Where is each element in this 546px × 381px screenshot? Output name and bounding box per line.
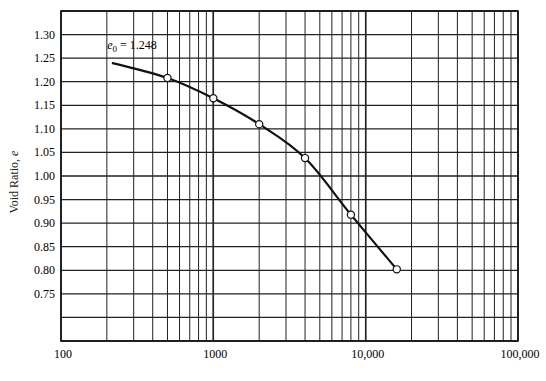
y-tick-label: 0.90 [34,216,55,230]
y-tick-label: 0.80 [34,263,55,277]
data-point-marker [347,211,354,218]
y-tick-label: 1.20 [34,75,55,89]
y-tick-label: 1.10 [34,122,55,136]
y-tick-label: 1.00 [34,169,55,183]
y-tick-label: 1.15 [34,98,55,112]
x-tick-label: 1000 [203,347,227,361]
data-point-marker [210,95,217,102]
consolidation-chart: 1.301.251.201.151.101.051.000.950.900.85… [0,0,546,381]
e0-annotation: e0 = 1.248 [107,38,157,54]
data-point-marker [256,121,263,128]
y-tick-label: 0.75 [34,287,55,301]
y-tick-labels: 1.301.251.201.151.101.051.000.950.900.85… [34,28,55,301]
y-tick-label: 1.25 [34,51,55,65]
data-point-marker [164,74,171,81]
x-tick-label: 10,000 [351,347,384,361]
x-tick-label: 100,000 [501,347,540,361]
y-tick-label: 0.95 [34,193,55,207]
data-point-marker [301,154,308,161]
x-tick-label: 100 [54,347,72,361]
y-axis-label: Void Ratio, e [7,151,22,214]
grid [61,11,518,341]
data-point-marker [393,266,400,273]
y-tick-label: 1.05 [34,145,55,159]
data-points [164,74,400,273]
x-tick-labels: 100100010,000100,000 [54,347,540,361]
void-ratio-curve [112,63,397,269]
y-tick-label: 0.85 [34,240,55,254]
y-tick-label: 1.30 [34,28,55,42]
